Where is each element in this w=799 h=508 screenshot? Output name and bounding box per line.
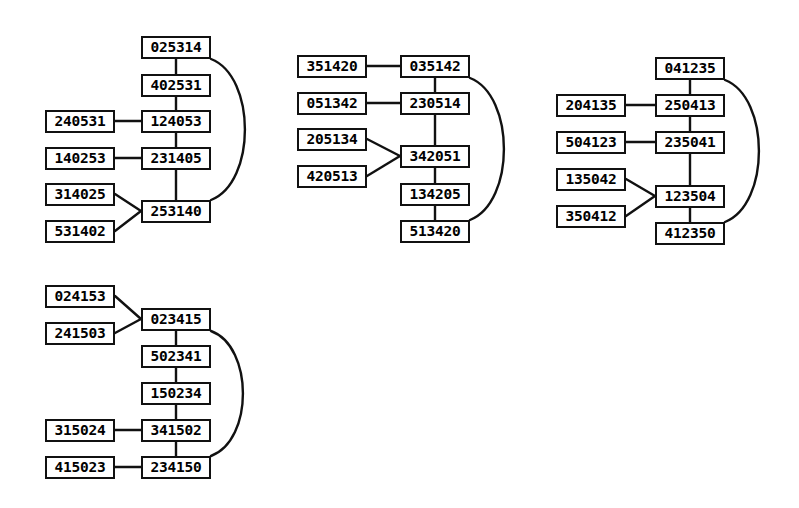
node-label: 231405 — [150, 151, 201, 166]
node-label: 041235 — [664, 61, 715, 76]
node-c3-s2[interactable]: 135042 — [556, 168, 626, 191]
node-c1-n0[interactable]: 025314 — [141, 36, 211, 59]
node-c4-n3[interactable]: 341502 — [141, 419, 211, 442]
node-label: 504123 — [565, 135, 616, 150]
node-c4-s2[interactable]: 315024 — [45, 419, 115, 442]
node-label: 240531 — [54, 114, 105, 129]
node-label: 135042 — [565, 172, 616, 187]
node-label: 502341 — [150, 349, 201, 364]
node-label: 314025 — [54, 187, 105, 202]
node-label: 342051 — [409, 149, 460, 164]
node-label: 420513 — [306, 169, 357, 184]
node-c2-n4[interactable]: 513420 — [400, 220, 470, 243]
node-c1-s3[interactable]: 531402 — [45, 220, 115, 243]
node-c2-s3[interactable]: 420513 — [297, 165, 367, 188]
node-label: 205134 — [306, 132, 357, 147]
node-c1-n1[interactable]: 402531 — [141, 74, 211, 97]
node-label: 134205 — [409, 187, 460, 202]
node-c1-s2[interactable]: 314025 — [45, 183, 115, 206]
node-layer: 0253144025311240532314052531402405311402… — [0, 0, 799, 508]
node-label: 051342 — [306, 96, 357, 111]
node-label: 513420 — [409, 224, 460, 239]
node-c4-s0[interactable]: 024153 — [45, 285, 115, 308]
node-c4-s3[interactable]: 415023 — [45, 456, 115, 479]
node-label: 315024 — [54, 423, 105, 438]
node-c4-n2[interactable]: 150234 — [141, 382, 211, 405]
node-c2-s2[interactable]: 205134 — [297, 128, 367, 151]
node-label: 025314 — [150, 40, 201, 55]
node-label: 341502 — [150, 423, 201, 438]
node-label: 350412 — [565, 209, 616, 224]
node-label: 235041 — [664, 135, 715, 150]
node-label: 204135 — [565, 98, 616, 113]
node-label: 234150 — [150, 460, 201, 475]
node-c3-s3[interactable]: 350412 — [556, 205, 626, 228]
node-c3-n2[interactable]: 235041 — [655, 131, 725, 154]
node-c1-n4[interactable]: 253140 — [141, 200, 211, 223]
node-c2-s1[interactable]: 051342 — [297, 92, 367, 115]
node-c2-n0[interactable]: 035142 — [400, 55, 470, 78]
node-c3-n0[interactable]: 041235 — [655, 57, 725, 80]
node-c4-n1[interactable]: 502341 — [141, 345, 211, 368]
node-label: 023415 — [150, 312, 201, 327]
node-label: 402531 — [150, 78, 201, 93]
node-c2-n1[interactable]: 230514 — [400, 92, 470, 115]
node-label: 250413 — [664, 98, 715, 113]
node-label: 351420 — [306, 59, 357, 74]
node-c3-s0[interactable]: 204135 — [556, 94, 626, 117]
node-c3-n3[interactable]: 123504 — [655, 185, 725, 208]
node-label: 241503 — [54, 326, 105, 341]
node-label: 150234 — [150, 386, 201, 401]
node-c3-n4[interactable]: 412350 — [655, 222, 725, 245]
node-c1-n3[interactable]: 231405 — [141, 147, 211, 170]
node-c2-s0[interactable]: 351420 — [297, 55, 367, 78]
node-label: 024153 — [54, 289, 105, 304]
node-c3-n1[interactable]: 250413 — [655, 94, 725, 117]
node-label: 140253 — [54, 151, 105, 166]
node-c1-n2[interactable]: 124053 — [141, 110, 211, 133]
node-c4-n4[interactable]: 234150 — [141, 456, 211, 479]
node-label: 412350 — [664, 226, 715, 241]
node-label: 035142 — [409, 59, 460, 74]
node-c2-n3[interactable]: 134205 — [400, 183, 470, 206]
node-label: 253140 — [150, 204, 201, 219]
node-c3-s1[interactable]: 504123 — [556, 131, 626, 154]
node-c1-s0[interactable]: 240531 — [45, 110, 115, 133]
diagram-canvas: 0253144025311240532314052531402405311402… — [0, 0, 799, 508]
node-label: 230514 — [409, 96, 460, 111]
node-c1-s1[interactable]: 140253 — [45, 147, 115, 170]
node-c2-n2[interactable]: 342051 — [400, 145, 470, 168]
node-label: 124053 — [150, 114, 201, 129]
node-label: 123504 — [664, 189, 715, 204]
node-c4-s1[interactable]: 241503 — [45, 322, 115, 345]
node-c4-n0[interactable]: 023415 — [141, 308, 211, 331]
node-label: 531402 — [54, 224, 105, 239]
node-label: 415023 — [54, 460, 105, 475]
